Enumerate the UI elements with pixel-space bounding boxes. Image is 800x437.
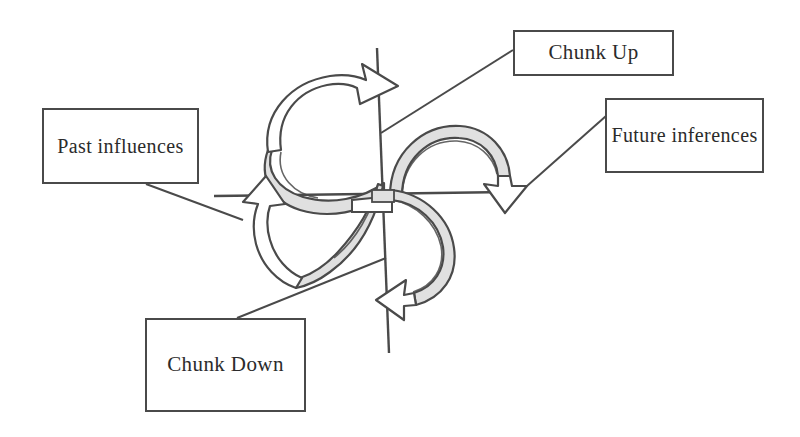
label-text-chunk-down: Chunk Down xyxy=(163,352,288,378)
label-box-past-influences[interactable]: Past influences xyxy=(42,108,199,184)
label-box-future-inferences[interactable]: Future inferences xyxy=(605,98,764,173)
leader-line-past-influences xyxy=(146,184,243,220)
diagram-canvas: Chunk Up Past influences Future inferenc… xyxy=(0,0,800,437)
label-box-chunk-up[interactable]: Chunk Up xyxy=(513,30,674,76)
label-box-chunk-down[interactable]: Chunk Down xyxy=(145,318,306,412)
diagram-graphics xyxy=(0,0,800,437)
label-text-chunk-up: Chunk Up xyxy=(544,40,642,66)
leader-line-future-inferences xyxy=(527,116,606,186)
leader-line-chunk-down xyxy=(237,258,386,318)
leader-line-chunk-up xyxy=(381,50,513,133)
label-text-past-influences: Past influences xyxy=(53,134,188,158)
label-text-future-inferences: Future inferences xyxy=(607,123,761,147)
